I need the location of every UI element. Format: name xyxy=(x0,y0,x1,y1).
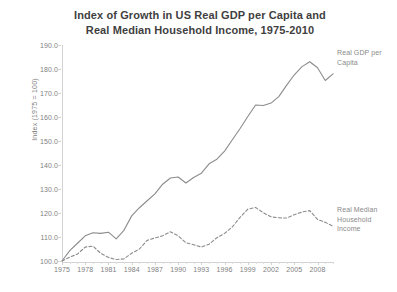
series-line-real-gdp-per-capita xyxy=(62,62,333,261)
series-annotation-real-median-income: Real Median Household Income xyxy=(337,205,395,234)
chart-container: Index of Growth in US Real GDP per Capit… xyxy=(0,0,397,292)
series-line-real-median-household-income xyxy=(62,207,333,261)
chart-series-layer xyxy=(0,0,397,292)
series-annotation-real-gdp: Real GDP per Capita xyxy=(337,48,395,67)
